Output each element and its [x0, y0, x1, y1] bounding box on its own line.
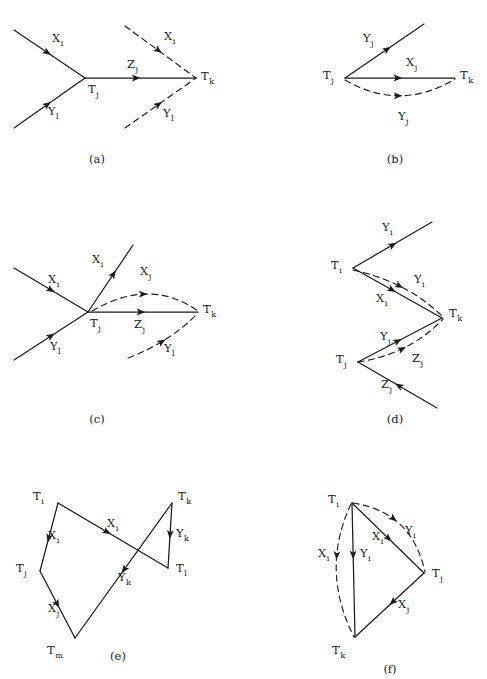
panel-f-caption: (f): [383, 662, 396, 676]
panel-f-Tj-to-Tk-Xj-label: Xj: [398, 597, 409, 614]
panel-f-vertex-T_j-label: Tj: [432, 566, 443, 583]
panel-d-arc-Zj-subscript: j: [420, 358, 424, 368]
panel-c-vertex-T_j-label: Tj: [90, 316, 101, 333]
panel-e-Tk-to-Tl-Yk-label: Yk: [175, 526, 190, 543]
panel-c-arrow-arc-Xj: [139, 291, 148, 298]
panel-c-outgoing-Xi-subscript: i: [101, 259, 104, 269]
panel-e-vertex-T_j-label: Tj: [16, 561, 27, 578]
panel-d-vertex-T_j-label: Tj: [336, 352, 347, 369]
panel-b-arc-Yj-label: Yj: [397, 109, 409, 126]
panel-f-arc-Xi-dashed-label: Xi: [318, 546, 330, 563]
panel-d-caption: (d): [387, 412, 403, 426]
panel-b-edge-arc-Yj: [345, 79, 455, 96]
panel-c-propagator-Zj-label: Zj: [134, 317, 145, 334]
figure-root: XiYlZjXiYlTjTk(a)YjXjYjTjTk(b)XiYlXiZjXj…: [0, 0, 487, 679]
panel-b-vertex-T_j-subscript: j: [330, 75, 334, 85]
panel-c-arrow-incoming-Xi: [46, 285, 57, 295]
panel-e-Tk-to-Tl-Yk-subscript: k: [184, 533, 190, 543]
panel-d-arrow-outgoing-Yi: [387, 240, 398, 250]
panel-f-Ti-to-Tk-Yi-subscript: i: [368, 553, 371, 563]
panel-c-outgoing-Xi-label: Xi: [92, 252, 104, 269]
panel-d-vertex-T_k-label: Tk: [449, 306, 463, 323]
panel-f-arc-Yi-dashed-subscript: i: [413, 530, 416, 540]
panel-e: XiXjXiYkYkTiTjTmTkTl(e): [16, 489, 192, 663]
panel-c-caption: (c): [89, 412, 104, 426]
panel-c-arc-Xj-label: Xj: [140, 264, 151, 281]
panel-e-vertex-T_m-label: Tm: [47, 643, 63, 660]
panel-f-arrow-arc-Xi-dashed: [333, 551, 340, 560]
panel-d-arc-Zj-label: Zj: [412, 351, 423, 368]
panel-e-vertex-T_k-subscript: k: [186, 496, 192, 506]
panel-f-arc-Yi-dashed-label: Yi: [404, 523, 416, 540]
panel-d-segment-Xi-subscript: i: [385, 298, 388, 308]
panel-d-incoming-Zj-subscript: j: [389, 384, 393, 394]
panel-e-vertex-T_i-subscript: i: [41, 496, 44, 506]
panel-c-outgoing-Yl-label: Yl: [163, 341, 175, 358]
panel-d-outgoing-Yi-label: Yi: [381, 220, 393, 237]
panel-c-vertex-T_k-label: Tk: [203, 302, 217, 319]
panel-f-edge-arc-Xi-dashed: [336, 504, 354, 637]
panel-d-vertex-T_j-subscript: j: [343, 359, 347, 369]
panel-b-arrow-incoming-Yj: [382, 44, 393, 54]
panel-e-Ti-to-Tl-Xi-subscript: i: [116, 523, 119, 533]
panel-b-caption: (b): [387, 152, 403, 166]
panel-a-propagator-Zj-subscript: j: [135, 64, 139, 74]
panel-d-arc-Yi-subscript: i: [422, 279, 425, 289]
panel-b: YjXjYjTjTk(b): [323, 24, 474, 166]
panel-c-arrow-outgoing-Xi: [108, 269, 118, 280]
panel-f-edge-Ti-to-Tk-Yi: [352, 503, 355, 637]
panel-f-Ti-to-Tk-Yi-label: Yi: [359, 546, 371, 563]
panel-a-vertex-T_j-subscript: j: [95, 89, 99, 99]
panel-b-edge-incoming-Yj: [345, 24, 424, 78]
panel-f-vertex-T_k-subscript: k: [340, 650, 346, 660]
panel-a-incoming-Xi-subscript: i: [61, 38, 64, 48]
panel-d-edge-segment-Xi: [353, 268, 442, 318]
panel-f-vertex-T_i-subscript: i: [336, 499, 339, 509]
panel-a-vertex-T_k-subscript: k: [209, 76, 215, 86]
panel-e-vertex-T_i-label: Ti: [33, 489, 44, 506]
panel-e-edge-Ti-to-Tl-Xi: [58, 503, 168, 568]
panel-e-vertex-T_k-label: Tk: [178, 489, 192, 506]
panel-b-vertex-T_j-label: Tj: [323, 68, 334, 85]
panel-f-vertex-T_i-label: Ti: [328, 492, 339, 509]
panel-d-arrow-arc-Zj: [397, 344, 408, 354]
diagram-figure: XiYlZjXiYlTjTk(a)YjXjYjTjTk(b)XiYlXiZjXj…: [0, 0, 487, 679]
panel-a-outgoing-Xi-subscript: i: [173, 36, 176, 46]
panel-d-arrow-arc-Yi: [394, 281, 405, 291]
panel-c-incoming-Yl-label: Yl: [49, 339, 61, 356]
panel-d-segment-Xi-label: Xi: [376, 291, 388, 308]
panel-a-arrow-outgoing-Xi: [153, 45, 164, 56]
panel-b-propagator-Xj-subscript: j: [414, 62, 418, 72]
panel-a-incoming-Yl-label: Yl: [47, 104, 59, 121]
panel-d-incoming-Zj-label: Zj: [381, 377, 392, 394]
panel-a: XiYlZjXiYlTjTk(a): [14, 26, 215, 166]
panel-a-vertex-T_k-label: Tk: [201, 69, 215, 86]
panel-e-vertex-T_l-subscript: l: [184, 568, 187, 578]
panel-e-vertex-T_m-subscript: m: [55, 650, 63, 660]
panel-b-incoming-Yj-subscript: j: [370, 38, 374, 48]
panel-c-propagator-Zj-subscript: j: [142, 324, 146, 334]
panel-a-incoming-Xi-label: Xi: [52, 31, 64, 48]
panel-b-vertex-T_k-subscript: k: [468, 75, 474, 85]
panel-d-segment-Yj-subscript: j: [387, 336, 391, 346]
panel-f-arc-Xi-dashed-subscript: i: [327, 553, 330, 563]
panel-d-vertex-T_i-subscript: i: [339, 265, 342, 275]
panel-c-vertex-T_j-subscript: j: [97, 323, 101, 333]
panel-f: YiXiXjYiXiTiTjTk(f): [318, 492, 443, 676]
panel-e-Ti-to-Tj-Xi-subscript: i: [57, 535, 60, 545]
panel-e-Ti-to-Tl-Xi-label: Xi: [107, 516, 119, 533]
panel-b-incoming-Yj-label: Yj: [362, 31, 374, 48]
panel-a-incoming-Yl-subscript: l: [56, 111, 59, 121]
panel-d-arrow-incoming-Zj: [393, 381, 404, 391]
panel-e-vertex-T_j-subscript: j: [23, 568, 27, 578]
panel-c: XiYlXiZjXjYlTjTk(c): [14, 245, 217, 426]
panel-a-arrow-incoming-Xi: [42, 47, 53, 57]
panel-e-Tk-to-Tm-Yk-label: Yk: [117, 570, 132, 587]
panel-b-arc-Yj-subscript: j: [405, 116, 409, 126]
panel-a-propagator-Zj-label: Zj: [127, 57, 138, 74]
panel-c-edge-arc-Xj: [92, 294, 198, 311]
panel-e-caption: (e): [110, 649, 126, 663]
panel-d-segment-Yj-label: Yj: [379, 329, 391, 346]
panel-f-arrow-arc-Yi-dashed: [388, 514, 399, 525]
panel-d-outgoing-Yi-subscript: i: [390, 227, 393, 237]
